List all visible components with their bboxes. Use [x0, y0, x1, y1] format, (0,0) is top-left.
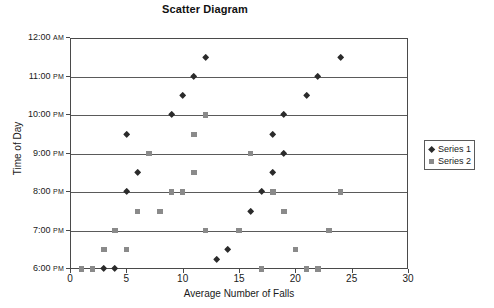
x-tick-label: 0: [55, 273, 85, 284]
y-tick-label: 11:00 PM: [29, 72, 64, 81]
plot-area: [70, 38, 408, 269]
x-axis-title: Average Number of Falls: [70, 288, 408, 299]
gridline: [71, 192, 407, 193]
chart-title: Scatter Diagram: [0, 3, 410, 15]
x-tick-label: 5: [111, 273, 141, 284]
y-tick-label: 7:00 PM: [33, 226, 64, 235]
chart-legend: Series 1 Series 2: [424, 140, 475, 170]
y-tick-mark: [66, 76, 70, 77]
x-tick-label: 30: [393, 273, 423, 284]
y-tick-label: 9:00 PM: [33, 149, 64, 158]
legend-item-label: Series 2: [437, 156, 471, 166]
scatter-chart: Scatter Diagram 6:00 PM7:00 PM8:00 PM9:0…: [0, 0, 494, 308]
x-tick-label: 20: [280, 273, 310, 284]
y-tick-mark: [66, 191, 70, 192]
y-tick-label: 6:00 PM: [33, 264, 64, 273]
legend-item: Series 1: [427, 143, 471, 155]
x-tick-label: 15: [224, 273, 254, 284]
x-tick-label: 10: [168, 273, 198, 284]
y-axis-title: Time of Day: [12, 89, 23, 209]
gridline: [71, 77, 407, 78]
y-tick-label: 12:00 AM: [28, 33, 64, 42]
square-icon: [427, 156, 437, 166]
y-tick-mark: [66, 153, 70, 154]
y-tick-mark: [66, 114, 70, 115]
y-tick-label: 8:00 PM: [33, 187, 64, 196]
x-tick-label: 25: [337, 273, 367, 284]
y-tick-mark: [66, 230, 70, 231]
gridline: [71, 115, 407, 116]
legend-item: Series 2: [427, 155, 471, 167]
legend-item-label: Series 1: [437, 144, 471, 154]
y-tick-label: 10:00 PM: [28, 110, 64, 119]
gridline: [71, 154, 407, 155]
diamond-icon: [427, 144, 437, 154]
y-tick-mark: [66, 37, 70, 38]
